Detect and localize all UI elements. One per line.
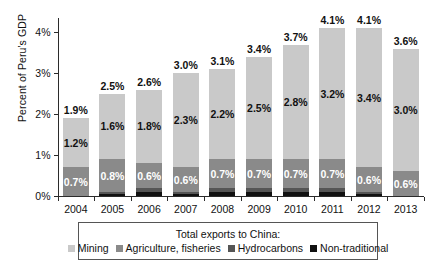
bar-segment-label: 2.8% [283, 97, 309, 108]
x-axis-category-label: 2006 [129, 203, 169, 215]
x-axis-category-label: 2012 [349, 203, 389, 215]
bar-segment: 2.8% [283, 45, 309, 160]
bar-total-label: 4.1% [348, 14, 390, 26]
legend-swatch-icon [68, 245, 75, 252]
legend-title: Total exports to China: [176, 228, 280, 240]
legend-swatch-icon [116, 245, 123, 252]
bar-segment [283, 192, 309, 196]
bar-segment: 1.6% [99, 94, 125, 159]
x-tick-mark [131, 197, 132, 201]
bar-stack: 3.2%0.7% [319, 28, 345, 196]
legend-item-label: Hydrocarbons [238, 242, 303, 254]
bar-segment [356, 194, 382, 196]
bar-segment: 3.0% [393, 49, 419, 172]
bar-stack: 3.0%0.6% [393, 49, 419, 196]
bar-segment-label: 0.6% [393, 179, 419, 190]
bar-total-label: 2.6% [128, 76, 170, 88]
legend-item: Hydrocarbons [228, 242, 303, 254]
stacked-bar-chart: Percent of Peru's GDP 0%1%2%3%4% 1.2%0.7… [0, 0, 435, 270]
bar-segment: 2.5% [246, 57, 272, 159]
bar-segment: 0.6% [173, 167, 199, 192]
x-tick-mark [241, 197, 242, 201]
bar-total-label: 1.9% [55, 104, 97, 116]
bar-segment: 0.7% [63, 167, 89, 196]
bar-segment-label: 1.2% [63, 138, 89, 149]
x-axis-category-label: 2011 [312, 203, 352, 215]
bar-segment [99, 194, 125, 196]
bar-segment: 3.2% [319, 28, 345, 159]
bar-stack: 1.6%0.8% [99, 94, 125, 196]
legend-swatch-icon [310, 245, 317, 252]
bar-stack: 1.2%0.7% [63, 118, 89, 196]
y-tick-label: 2% [25, 109, 51, 119]
x-tick-mark [351, 197, 352, 201]
bar-segment-label: 1.6% [99, 121, 125, 132]
bar-segment-label: 0.7% [63, 177, 89, 188]
bar-segment-label: 0.7% [209, 169, 235, 180]
legend-item-label: Agriculture, fisheries [126, 242, 221, 254]
bar-segment: 0.8% [99, 159, 125, 192]
bar-segment-label: 0.7% [283, 169, 309, 180]
bar-segment: 0.6% [136, 163, 162, 188]
x-axis-category-label: 2009 [239, 203, 279, 215]
x-tick-mark [387, 197, 388, 201]
x-tick-mark [314, 197, 315, 201]
bar-segment-label: 2.2% [209, 109, 235, 120]
bar-segment: 0.7% [283, 159, 309, 188]
bar-segment: 0.7% [209, 159, 235, 188]
bar-stack: 1.8%0.6% [136, 90, 162, 196]
x-tick-mark [58, 197, 59, 201]
x-axis-category-label: 2007 [166, 203, 206, 215]
legend: Total exports to China: MiningAgricultur… [78, 222, 378, 260]
bar-segment: 1.2% [63, 118, 89, 167]
bar-segment [319, 192, 345, 196]
bar-segment-label: 2.3% [173, 115, 199, 126]
legend-item-label: Mining [78, 242, 109, 254]
legend-item-label: Non-traditional [320, 242, 388, 254]
bar-segment-label: 0.8% [99, 171, 125, 182]
x-tick-mark [277, 197, 278, 201]
legend-item: Mining [68, 242, 109, 254]
bar-stack: 2.5%0.7% [246, 57, 272, 196]
bar-segment-label: 3.2% [319, 89, 345, 100]
x-tick-mark [94, 197, 95, 201]
bar-segment: 0.7% [246, 159, 272, 188]
bar-segment-label: 2.5% [246, 103, 272, 114]
y-tick-label: 4% [25, 27, 51, 37]
bar-segment: 2.2% [209, 69, 235, 159]
bar-segment: 0.6% [356, 167, 382, 192]
x-tick-mark [204, 197, 205, 201]
x-axis-category-label: 2013 [386, 203, 426, 215]
x-axis-category-label: 2005 [92, 203, 132, 215]
y-tick-label: 3% [25, 68, 51, 78]
legend-item: Agriculture, fisheries [116, 242, 221, 254]
bar-segment [136, 192, 162, 196]
bar-segment: 2.3% [173, 73, 199, 167]
y-tick-label: 1% [25, 150, 51, 160]
x-tick-mark [167, 197, 168, 201]
legend-items: MiningAgriculture, fisheriesHydrocarbons… [68, 242, 389, 254]
bar-segment-label: 3.0% [393, 105, 419, 116]
bar-segment [173, 194, 199, 196]
bar-segment-label: 0.7% [319, 169, 345, 180]
bar-segment: 3.4% [356, 28, 382, 167]
legend-swatch-icon [228, 245, 235, 252]
bar-stack: 2.3%0.6% [173, 73, 199, 196]
legend-item: Non-traditional [310, 242, 388, 254]
bar-segment-label: 3.4% [356, 93, 382, 104]
bar-segment [246, 192, 272, 196]
x-axis-category-label: 2008 [202, 203, 242, 215]
bar-stack: 2.2%0.7% [209, 69, 235, 196]
x-tick-mark [424, 197, 425, 201]
bar-segment: 0.7% [319, 159, 345, 188]
bar-segment-label: 0.6% [136, 171, 162, 182]
bar-segment-label: 1.8% [136, 121, 162, 132]
bar-segment: 0.6% [393, 171, 419, 196]
bar-segment [209, 192, 235, 196]
x-axis-category-label: 2010 [276, 203, 316, 215]
bar-total-label: 3.1% [201, 55, 243, 67]
bar-segment-label: 0.7% [246, 169, 272, 180]
y-tick-label: 0% [25, 191, 51, 201]
bar-segment-label: 0.6% [173, 175, 199, 186]
bar-stack: 2.8%0.7% [283, 45, 309, 196]
